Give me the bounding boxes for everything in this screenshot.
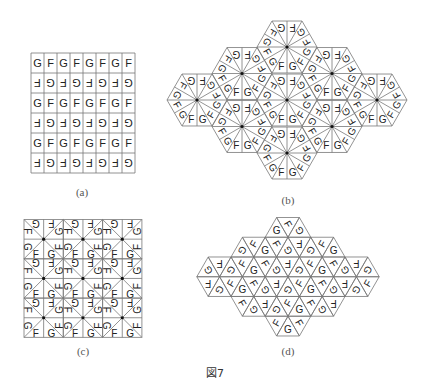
glyph-G: G [98,77,107,89]
glyph-F: F [342,278,348,289]
glyph-F: F [47,137,54,149]
glyph-G: G [98,157,107,169]
glyph-F: F [73,137,80,149]
glyph-F: F [323,87,329,98]
glyph-G: G [277,128,285,139]
glyph-F: F [62,268,73,274]
glyph-G: G [46,77,55,89]
glyph-G: G [187,75,195,86]
glyph-F: F [101,268,112,274]
glyph-G: G [296,304,304,315]
glyph-G: G [244,140,252,151]
glyph-F: F [290,128,296,139]
glyph-F: F [127,297,133,308]
glyph-F: F [101,228,112,234]
glyph-G: G [110,257,118,268]
glyph-G: G [59,137,68,149]
panel-a: GFGFGFGFFGFGFGFGGFGFGFGFFGFGFGFGGFGFGFGF… [31,53,135,173]
glyph-G: G [71,218,79,229]
glyph-F: F [270,317,283,328]
glyph-G: G [22,282,33,290]
panel-c: FGFGFGFGFGFGFGFGFGFGFGFGFGFGFGFGFGFGFGFG… [22,218,143,339]
glyph-G: G [330,245,338,256]
glyph-G: G [132,227,143,235]
glyph-G: G [277,75,285,86]
glyph-F: F [245,49,251,60]
glyph-F: F [34,77,41,89]
glyph-G: G [318,265,326,276]
glyph-G: G [33,97,42,109]
glyph-F: F [217,258,223,269]
glyph-G: G [379,114,387,125]
glyph-G: G [232,102,240,113]
glyph-F: F [88,297,94,308]
glyph-G: G [289,61,297,72]
glyph-G: G [59,57,68,69]
panel-d-label: (d) [282,345,295,357]
glyph-F: F [259,258,272,269]
glyph-G: G [244,87,252,98]
glyph-F: F [296,238,302,249]
glyph-F: F [233,87,239,98]
glyph-F: F [33,328,39,339]
glyph-G: G [72,77,81,89]
panel-a-label: (a) [76,186,88,198]
glyph-F: F [125,97,132,109]
glyph-F: F [125,57,132,69]
glyph-F: F [88,218,94,229]
glyph-F: F [60,157,67,169]
glyph-G: G [46,157,55,169]
glyph-G: G [101,322,112,330]
glyph-F: F [233,140,239,151]
glyph-F: F [101,307,112,313]
glyph-G: G [199,114,207,125]
glyph-G: G [322,102,330,113]
glyph-G: G [111,137,120,149]
glyph-F: F [22,307,33,313]
glyph-F: F [48,257,54,268]
glyph-G: G [110,218,118,229]
glyph-G: G [111,97,120,109]
glyph-F: F [127,218,133,229]
glyph-G: G [132,266,143,274]
glyph-F: F [305,298,318,309]
glyph-F: F [380,75,386,86]
glyph-F: F [293,317,306,328]
glyph-F: F [132,244,143,250]
figure-caption: 図7 [206,364,224,380]
glyph-G: G [124,77,133,89]
panel-b: FGFGFGFGFGFGFGFGFGFGFGFGFGFGFGFGFGFGFGFG… [167,21,407,179]
glyph-F: F [278,61,284,72]
glyph-F: F [188,114,194,125]
glyph-G: G [284,324,292,335]
glyph-F: F [331,298,337,309]
glyph-G: G [110,297,118,308]
glyph-F: F [290,75,296,86]
panel-d: GFGGFGFGFGFGGFGFGFGFGFGFGFGFGFGFGFGFGFGF… [197,218,379,336]
glyph-F: F [282,219,295,230]
glyph-G: G [32,297,40,308]
glyph-F: F [323,140,329,151]
glyph-F: F [262,298,268,309]
glyph-G: G [277,22,285,33]
glyph-G: G [62,282,73,290]
glyph-G: G [101,282,112,290]
glyph-F: F [132,283,143,289]
glyph-G: G [85,137,94,149]
glyph-F: F [60,117,67,129]
glyph-F: F [62,307,73,313]
glyph-G: G [239,284,247,295]
glyph-F: F [99,137,106,149]
glyph-F: F [305,258,318,269]
glyph-F: F [73,97,80,109]
glyph-G: G [124,157,133,169]
glyph-G: G [71,297,79,308]
glyph-G: G [72,157,81,169]
glyph-G: G [273,225,281,236]
glyph-G: G [33,57,42,69]
glyph-F: F [22,228,33,234]
glyph-G: G [22,322,33,330]
glyph-G: G [98,117,107,129]
glyph-F: F [47,57,54,69]
glyph-F: F [362,278,375,289]
